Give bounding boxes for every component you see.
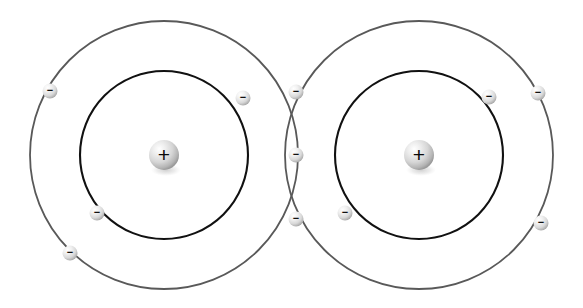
electron-charge-label: − [293,212,299,224]
electron-left-outer-lower-left: − [63,246,78,261]
electron-left-inner-upper-right: − [236,91,251,106]
electron-charge-label: − [240,91,246,103]
electron-charge-label: − [47,84,53,96]
electron-right-outer-lower-right: − [534,216,549,231]
electron-left-outer-upper-left: − [43,84,58,99]
left-nucleus-charge-label: + [158,143,170,166]
atom-bond-diagram: + + − − − − [0,0,583,308]
diagram-canvas: + + − − − − [0,0,583,308]
right-nucleus: + [404,140,436,176]
electron-layer: − − − − − − − [43,84,549,261]
electron-charge-label: − [342,206,348,218]
electron-charge-label: − [538,216,544,228]
electron-charge-label: − [535,86,541,98]
right-nucleus-charge-label: + [413,143,425,166]
electron-right-outer-upper-right: − [531,86,546,101]
electron-right-inner-upper-right: − [482,90,497,105]
electron-charge-label: − [67,246,73,258]
electron-charge-label: − [94,206,100,218]
electron-right-inner-lower-left: − [338,206,353,221]
electron-shared-bottom-intersection: − [289,212,304,227]
electron-charge-label: − [293,148,299,160]
electron-charge-label: − [293,85,299,97]
electron-shared-top-intersection: − [289,85,304,100]
left-nucleus: + [149,140,181,176]
electron-shared-center: − [289,148,304,163]
electron-charge-label: − [486,90,492,102]
electron-left-inner-lower-left: − [90,206,105,221]
